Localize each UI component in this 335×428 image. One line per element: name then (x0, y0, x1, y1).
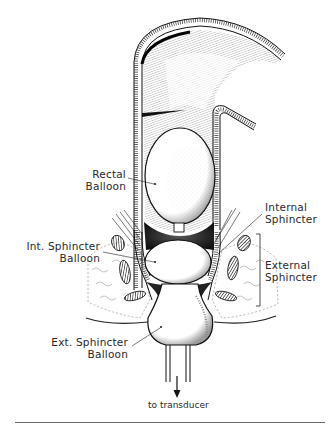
label-to-transducer: to transducer (148, 400, 209, 410)
bowel-wall-inner-right (213, 106, 256, 224)
skin-line-left (86, 318, 148, 323)
label-ext-sphincter-balloon: Ext. Sphincter Balloon (40, 336, 128, 360)
divider-rule (15, 422, 325, 423)
arrow-down-icon (174, 376, 181, 398)
levator-fibres-right (214, 208, 240, 248)
label-rectal-balloon: Rectal Balloon (80, 168, 126, 192)
label-internal-sphincter: Internal Sphincter (265, 201, 317, 225)
balloon-connector (174, 223, 184, 232)
catheter-tubes (166, 345, 190, 382)
label-external-sphincter: External Sphincter (265, 259, 317, 283)
label-int-sphincter-balloon: Int. Sphincter Balloon (14, 240, 100, 264)
